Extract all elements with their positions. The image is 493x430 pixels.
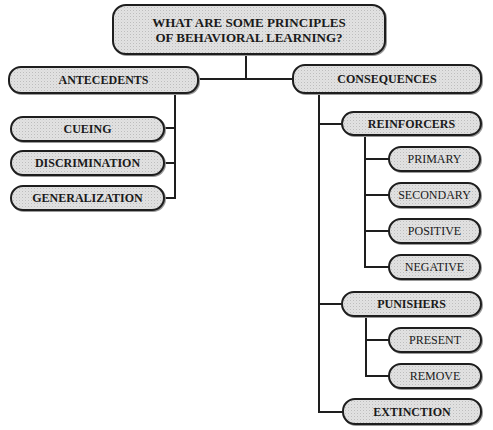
cueing-connector xyxy=(164,127,176,129)
reinforcers-label: REINFORCERS xyxy=(368,117,455,131)
generalization-label: GENERALIZATION xyxy=(32,191,142,205)
primary-label: PRIMARY xyxy=(407,152,461,166)
antecedents-node: ANTECEDENTS xyxy=(8,66,199,94)
extinction-label: EXTINCTION xyxy=(373,405,450,419)
punishers-connector xyxy=(318,303,342,305)
reinforcers-node: REINFORCERS xyxy=(341,111,482,136)
reinforcers-trunk-connector xyxy=(364,134,366,267)
discrimination-node: DISCRIMINATION xyxy=(10,150,165,176)
root-stem-connector xyxy=(245,54,247,80)
cueing-label: CUEING xyxy=(63,122,111,136)
generalization-node: GENERALIZATION xyxy=(10,185,165,211)
secondary-node: SECONDARY xyxy=(388,182,481,208)
consequences-trunk-connector xyxy=(318,93,320,413)
punishers-label: PUNISHERS xyxy=(377,297,446,311)
discrimination-connector xyxy=(164,162,176,164)
negative-label: NEGATIVE xyxy=(405,260,464,274)
positive-label: POSITIVE xyxy=(408,224,461,238)
generalization-connector xyxy=(164,197,176,199)
remove-label: REMOVE xyxy=(410,369,461,383)
root-title-line2: OF BEHAVIORAL LEARNING? xyxy=(155,30,342,45)
negative-node: NEGATIVE xyxy=(388,254,481,280)
antecedents-trunk-connector xyxy=(174,93,176,199)
extinction-node: EXTINCTION xyxy=(342,398,482,425)
positive-connector xyxy=(364,230,389,232)
extinction-connector xyxy=(318,411,343,413)
consequences-node: CONSEQUENCES xyxy=(292,64,482,94)
consequences-label: CONSEQUENCES xyxy=(337,72,436,86)
present-connector xyxy=(365,339,389,341)
reinforcers-connector xyxy=(318,123,342,125)
root-title-line1: WHAT ARE SOME PRINCIPLES xyxy=(152,15,345,30)
secondary-connector xyxy=(364,194,389,196)
present-label: PRESENT xyxy=(409,333,461,347)
secondary-label: SECONDARY xyxy=(398,188,471,202)
punishers-trunk-connector xyxy=(365,315,367,377)
root-question-node: WHAT ARE SOME PRINCIPLES OF BEHAVIORAL L… xyxy=(112,4,386,55)
antecedents-label: ANTECEDENTS xyxy=(58,73,148,87)
remove-connector xyxy=(365,375,389,377)
remove-node: REMOVE xyxy=(388,363,482,389)
primary-connector xyxy=(364,158,389,160)
primary-node: PRIMARY xyxy=(388,146,481,172)
punishers-node: PUNISHERS xyxy=(341,291,482,317)
positive-node: POSITIVE xyxy=(388,218,481,244)
discrimination-label: DISCRIMINATION xyxy=(35,156,140,170)
present-node: PRESENT xyxy=(388,327,482,353)
cueing-node: CUEING xyxy=(10,116,165,142)
negative-connector xyxy=(364,266,389,268)
root-horizontal-connector xyxy=(198,78,294,80)
